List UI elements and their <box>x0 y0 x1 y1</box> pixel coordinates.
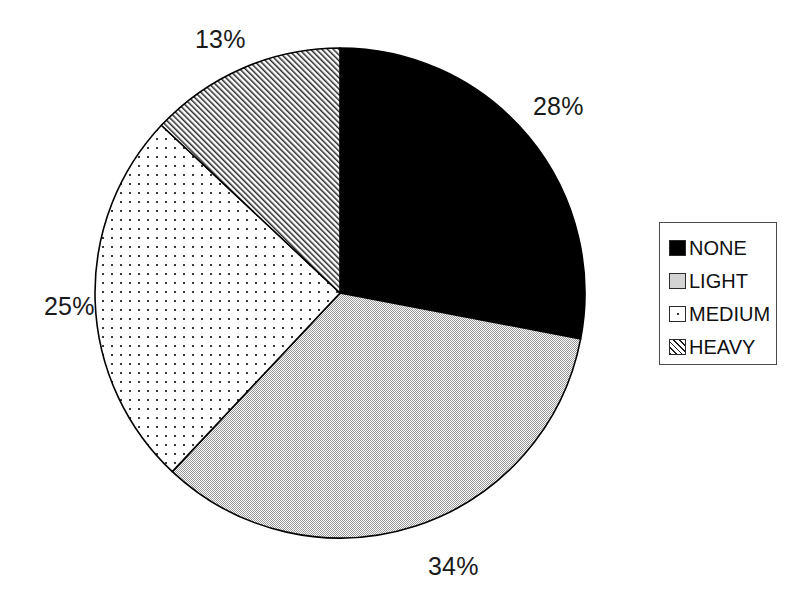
legend-swatch-none-icon <box>669 240 686 256</box>
pie-chart: 28% 34% 25% 13% NONE LIGHT MEDIUM HEAVY <box>0 0 811 601</box>
pie-slice-group <box>95 48 585 538</box>
legend-swatch-medium-icon <box>669 306 686 322</box>
slice-label-heavy: 13% <box>195 27 246 52</box>
legend-item-medium: MEDIUM <box>669 298 776 329</box>
legend-label-light: LIGHT <box>689 271 748 291</box>
legend-label-none: NONE <box>689 238 747 258</box>
slice-label-medium: 25% <box>44 294 95 319</box>
legend-item-heavy: HEAVY <box>669 331 776 362</box>
legend-swatch-heavy-icon <box>669 339 686 355</box>
legend-label-medium: MEDIUM <box>689 304 770 324</box>
slice-label-none: 28% <box>533 94 584 119</box>
legend-label-heavy: HEAVY <box>689 337 755 357</box>
legend-swatch-light-icon <box>669 273 686 289</box>
slice-label-light: 34% <box>428 554 479 579</box>
legend-item-none: NONE <box>669 232 776 263</box>
legend-item-light: LIGHT <box>669 265 776 296</box>
legend: NONE LIGHT MEDIUM HEAVY <box>659 222 777 365</box>
